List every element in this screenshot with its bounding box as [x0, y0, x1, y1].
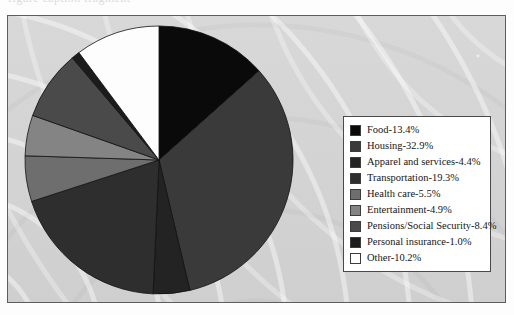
legend-label: Housing-32.9% [367, 140, 433, 152]
pie-slice-group: Food-13.4%Housing-32.9%Apparel and servi… [25, 26, 293, 294]
legend-label: Transportation-19.3% [367, 172, 459, 184]
legend-swatch [350, 141, 361, 152]
legend-swatch [350, 189, 361, 200]
pie-chart: Food-13.4%Housing-32.9%Apparel and servi… [23, 24, 295, 296]
legend-item: Personal insurance-1.0% [350, 234, 485, 250]
legend-label: Pensions/Social Security-8.4% [367, 220, 497, 232]
legend-item: Health care-5.5% [350, 186, 485, 202]
legend-label: Food-13.4% [367, 124, 419, 136]
legend-swatch [350, 125, 361, 136]
legend-item: Transportation-19.3% [350, 170, 485, 186]
legend-label: Other-10.2% [367, 252, 421, 264]
legend-item: Apparel and services-4.4% [350, 154, 485, 170]
legend-label: Apparel and services-4.4% [367, 156, 480, 168]
chart-legend: Food-13.4%Housing-32.9%Apparel and servi… [343, 116, 491, 272]
cropped-caption-text: figure caption fragment [8, 0, 131, 6]
legend-label: Entertainment-4.9% [367, 204, 452, 216]
scanned-page: figure caption fragment Food-13.4%Housin… [0, 0, 514, 315]
legend-item: Housing-32.9% [350, 138, 485, 154]
legend-swatch [350, 237, 361, 248]
legend-swatch [350, 205, 361, 216]
legend-label: Health care-5.5% [367, 188, 440, 200]
legend-swatch [350, 157, 361, 168]
legend-swatch [350, 173, 361, 184]
legend-item: Entertainment-4.9% [350, 202, 485, 218]
legend-item: Pensions/Social Security-8.4% [350, 218, 485, 234]
legend-item: Other-10.2% [350, 250, 485, 266]
legend-label: Personal insurance-1.0% [367, 236, 471, 248]
legend-swatch [350, 221, 361, 232]
pie-chart-svg: Food-13.4%Housing-32.9%Apparel and servi… [23, 24, 295, 296]
legend-swatch [350, 253, 361, 264]
legend-item: Food-13.4% [350, 122, 485, 138]
cropped-caption-strip: figure caption fragment [0, 0, 514, 12]
figure-panel: Food-13.4%Housing-32.9%Apparel and servi… [7, 15, 506, 303]
